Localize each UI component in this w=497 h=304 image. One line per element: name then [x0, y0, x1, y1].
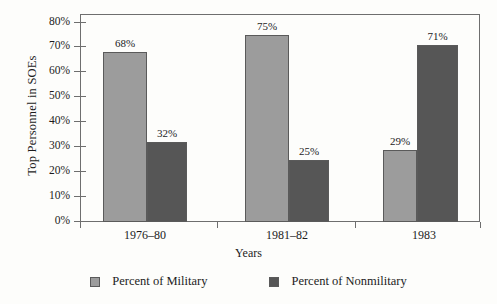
legend-label-nonmilitary: Percent of Nonmilitary [291, 274, 406, 289]
x-tick-mark [480, 222, 481, 228]
bar-military-2 [383, 150, 417, 222]
bar-military-0 [103, 52, 147, 222]
bar-military-1 [245, 35, 289, 222]
y-tick-mark [74, 196, 86, 197]
dark-gray-swatch-icon [269, 277, 279, 287]
y-tick-mark [74, 171, 86, 172]
x-tick-mark [217, 222, 218, 228]
bar-nonmilitary-2 [417, 45, 458, 222]
bar-value-label: 68% [105, 37, 145, 49]
y-tick-label: 0% [22, 214, 70, 226]
y-tick-label: 50% [22, 89, 70, 101]
x-tick-mark [80, 222, 81, 228]
chart-legend: Percent of Military Percent of Nonmilita… [0, 274, 497, 289]
x-category-label: 1981–82 [237, 228, 337, 243]
y-tick-label: 80% [22, 15, 70, 27]
y-tick-mark [74, 22, 86, 23]
legend-label-military: Percent of Military [112, 274, 207, 289]
bar-nonmilitary-1 [289, 160, 329, 222]
y-tick-mark [74, 71, 86, 72]
x-tick-mark [355, 222, 356, 228]
bar-value-label: 75% [247, 20, 287, 32]
bar-value-label: 32% [147, 127, 187, 139]
bar-value-label: 29% [380, 135, 420, 147]
x-category-label: 1983 [374, 228, 474, 243]
bar-value-label: 25% [289, 145, 329, 157]
x-axis-title: Years [0, 246, 497, 261]
y-tick-label: 30% [22, 139, 70, 151]
y-tick-label: 70% [22, 39, 70, 51]
y-tick-label: 10% [22, 189, 70, 201]
y-tick-mark [74, 146, 86, 147]
y-tick-label: 40% [22, 114, 70, 126]
y-tick-mark [74, 121, 86, 122]
bar-value-label: 71% [418, 30, 458, 42]
x-category-label: 1976–80 [95, 228, 195, 243]
bar-chart: Top Personnel in SOEs 0%10%20%30%40%50%6… [0, 0, 497, 304]
y-tick-mark [74, 46, 86, 47]
bar-nonmilitary-0 [147, 142, 187, 222]
y-tick-label: 20% [22, 164, 70, 176]
y-tick-label: 60% [22, 64, 70, 76]
legend-item-nonmilitary: Percent of Nonmilitary [269, 274, 406, 289]
legend-item-military: Percent of Military [90, 274, 207, 289]
light-gray-swatch-icon [90, 277, 100, 287]
y-tick-mark [74, 96, 86, 97]
